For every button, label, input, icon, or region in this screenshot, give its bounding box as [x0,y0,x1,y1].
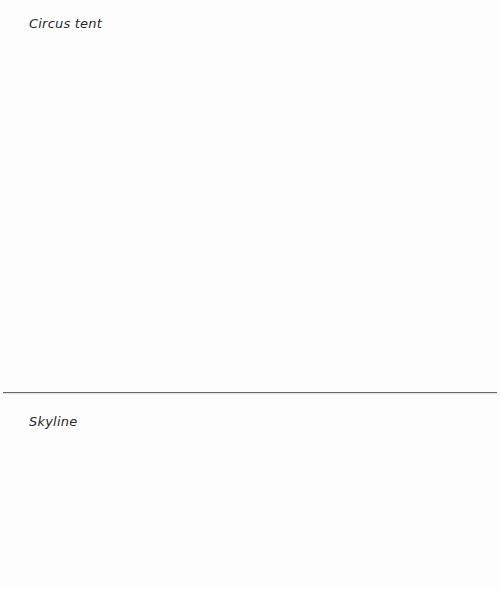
drawing-panel-skyline[interactable]: Skyline [0,394,500,589]
panel-label: Circus tent [29,16,102,31]
panel-label: Skyline [29,414,77,429]
panel-divider [3,392,497,393]
drawing-panel-circus-tent[interactable]: Circus tent [0,0,500,392]
